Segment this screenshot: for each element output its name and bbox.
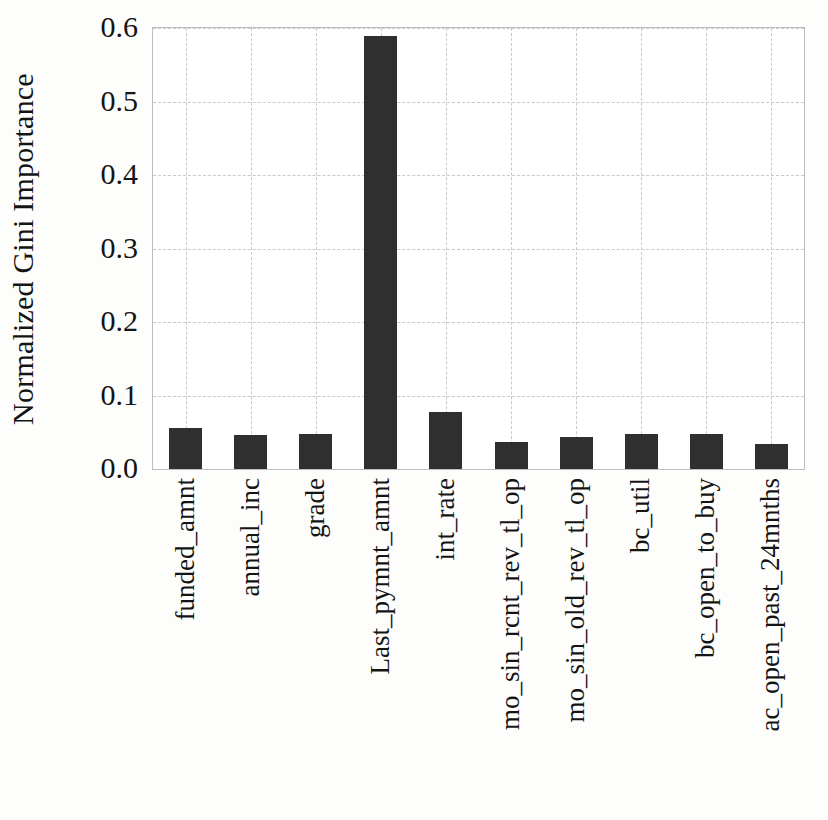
- bar: [169, 428, 202, 469]
- gridline-vertical: [641, 28, 642, 469]
- bar: [299, 434, 332, 469]
- bar: [755, 444, 788, 469]
- y-axis-label-container: Normalized Gini Importance: [0, 27, 46, 470]
- x-axis-tick-label: grade: [301, 478, 328, 538]
- gridline-vertical: [771, 28, 772, 469]
- bar: [364, 36, 397, 469]
- x-axis-tick-labels: funded_amntannual_incgradeLast_pymnt_amn…: [152, 472, 805, 792]
- gridline-vertical: [316, 28, 317, 469]
- x-axis-tick-label: bc_util: [627, 478, 654, 553]
- caption-remnant: [0, 795, 828, 820]
- bar: [234, 435, 267, 469]
- x-axis-tick-label: funded_amnt: [171, 478, 198, 620]
- bar: [690, 434, 723, 469]
- x-axis-tick-label: ac_open_past_24mnths: [757, 478, 784, 731]
- bar-chart-figure: Normalized Gini Importance 0.00.10.20.30…: [0, 0, 828, 820]
- y-axis-tick-label: 0.1: [101, 378, 139, 412]
- bar: [625, 434, 658, 469]
- x-axis-tick-label: mo_sin_old_rev_tl_op: [562, 478, 589, 723]
- y-axis-tick-label: 0.0: [101, 451, 139, 485]
- gridline-vertical: [446, 28, 447, 469]
- bar: [495, 442, 528, 469]
- gridline-vertical: [576, 28, 577, 469]
- x-axis-tick-label: bc_open_to_buy: [692, 478, 719, 658]
- gridline-vertical: [186, 28, 187, 469]
- gridline-vertical: [511, 28, 512, 469]
- y-axis-label: Normalized Gini Importance: [6, 73, 40, 425]
- gridline-vertical: [251, 28, 252, 469]
- gridline-vertical: [706, 28, 707, 469]
- y-axis-tick-label: 0.5: [101, 84, 139, 118]
- x-axis-tick-label: mo_sin_rcnt_rev_tl_op: [497, 478, 524, 730]
- plot-area: [152, 27, 805, 470]
- y-axis-tick-label: 0.6: [101, 10, 139, 44]
- y-axis-tick-label: 0.3: [101, 231, 139, 265]
- bar: [560, 437, 593, 469]
- y-axis-tick-label: 0.2: [101, 304, 139, 338]
- x-axis-tick-label: annual_inc: [236, 478, 263, 596]
- y-axis-tick-label: 0.4: [101, 157, 139, 191]
- x-axis-tick-label: int_rate: [431, 478, 458, 560]
- bar: [429, 412, 462, 469]
- x-axis-tick-label: Last_pymnt_amnt: [366, 478, 393, 674]
- y-axis-tick-labels: 0.00.10.20.30.40.50.6: [46, 0, 150, 820]
